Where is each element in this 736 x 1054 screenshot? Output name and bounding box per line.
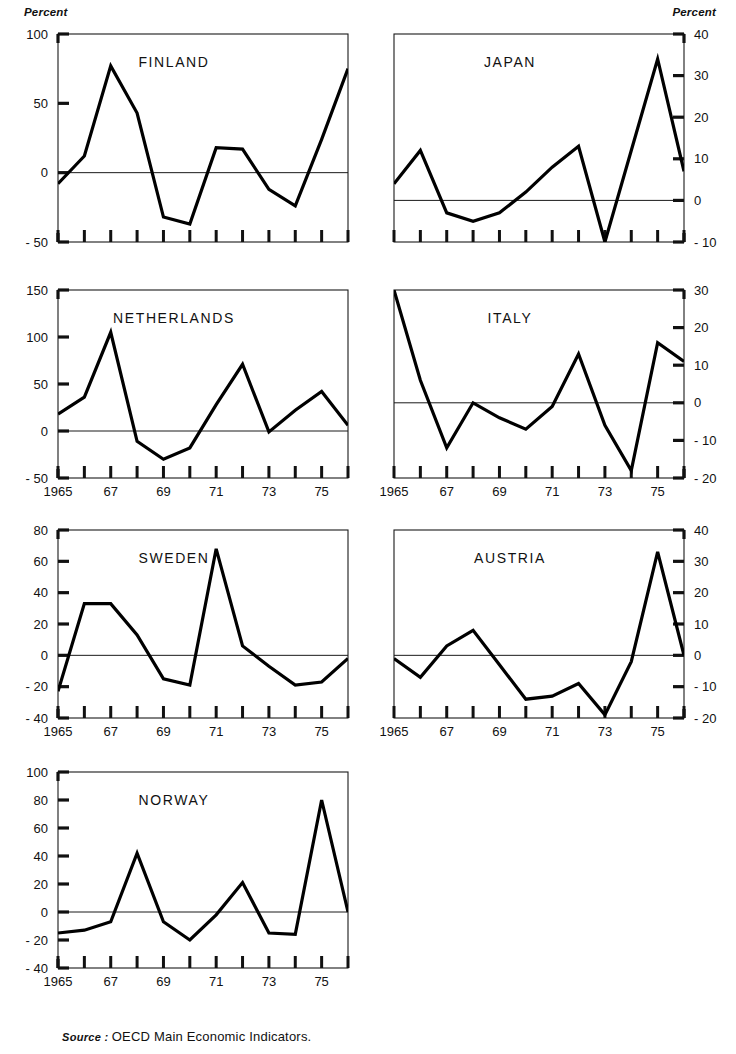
chart-panel-finland: - 50050100FINLAND: [0, 22, 368, 270]
y-tick-label: 100: [26, 27, 48, 42]
y-tick-label: 0: [41, 424, 48, 439]
x-tick-label: 73: [598, 724, 612, 739]
data-series-line: [394, 290, 684, 470]
x-tick-label: 69: [156, 724, 170, 739]
y-tick-label: 30: [694, 283, 708, 298]
y-tick-label: 60: [34, 554, 48, 569]
y-tick-label: 20: [694, 110, 708, 125]
x-tick-label: 71: [545, 724, 559, 739]
x-tick-label: 69: [492, 724, 506, 739]
chart-panel-italy: - 20- 10010203019656769717375ITALY: [368, 282, 736, 510]
y-tick-label: 10: [694, 617, 708, 632]
percent-axis-label-left: Percent: [24, 6, 68, 18]
x-tick-label: 75: [314, 974, 328, 989]
y-tick-label: - 20: [26, 679, 48, 694]
x-tick-label: 1965: [44, 724, 73, 739]
source-note: Source : OECD Main Economic Indicators.: [62, 1029, 311, 1044]
x-tick-label: 69: [156, 974, 170, 989]
y-tick-label: 20: [34, 877, 48, 892]
figure-page: Percent Percent - 50050100FINLAND - 1001…: [0, 0, 736, 1054]
x-tick-label: 67: [103, 484, 117, 499]
x-tick-label: 71: [545, 484, 559, 499]
chart-panel-austria: - 20- 1001020304019656769717375AUSTRIA: [368, 522, 736, 750]
y-tick-label: 20: [694, 585, 708, 600]
x-tick-label: 73: [598, 484, 612, 499]
data-series-line: [58, 800, 348, 940]
x-tick-label: 71: [209, 974, 223, 989]
y-tick-label: 100: [26, 765, 48, 780]
y-tick-label: 0: [694, 193, 701, 208]
chart-panel-japan: - 10010203040JAPAN: [368, 22, 736, 270]
x-tick-label: 1965: [380, 484, 409, 499]
y-tick-label: 0: [41, 905, 48, 920]
chart-title: ITALY: [488, 310, 533, 326]
x-tick-label: 75: [314, 484, 328, 499]
x-tick-label: 73: [262, 484, 276, 499]
y-tick-label: 40: [694, 523, 708, 538]
data-series-line: [58, 66, 348, 224]
y-tick-label: 100: [26, 330, 48, 345]
y-tick-label: 30: [694, 554, 708, 569]
y-tick-label: 30: [694, 68, 708, 83]
y-tick-label: 20: [694, 320, 708, 335]
chart-panel-norway: - 40- 2002040608010019656769717375NORWAY: [0, 762, 368, 1002]
x-tick-label: 73: [262, 974, 276, 989]
x-tick-label: 67: [103, 974, 117, 989]
x-tick-label: 71: [209, 484, 223, 499]
y-tick-label: - 50: [26, 235, 48, 250]
y-tick-label: 50: [34, 377, 48, 392]
y-tick-label: - 10: [694, 235, 716, 250]
x-tick-label: 1965: [44, 484, 73, 499]
chart-title: NETHERLANDS: [113, 310, 235, 326]
y-tick-label: 80: [34, 793, 48, 808]
y-tick-label: 80: [34, 523, 48, 538]
chart-panel-sweden: - 40- 2002040608019656769717375SWEDEN: [0, 522, 368, 750]
x-tick-label: 69: [492, 484, 506, 499]
y-tick-label: 0: [694, 395, 701, 410]
y-tick-label: - 20: [694, 471, 716, 486]
x-tick-label: 1965: [380, 724, 409, 739]
data-series-line: [394, 59, 684, 242]
chart-title: FINLAND: [138, 54, 209, 70]
x-tick-label: 71: [209, 724, 223, 739]
y-tick-label: 50: [34, 96, 48, 111]
x-tick-label: 75: [314, 724, 328, 739]
y-tick-label: 40: [694, 27, 708, 42]
data-series-line: [394, 552, 684, 715]
y-tick-label: 40: [34, 849, 48, 864]
data-series-line: [58, 332, 348, 459]
percent-axis-label-right: Percent: [672, 6, 716, 18]
x-tick-label: 75: [650, 724, 664, 739]
y-tick-label: 40: [34, 585, 48, 600]
x-tick-label: 69: [156, 484, 170, 499]
y-tick-label: - 10: [694, 433, 716, 448]
y-tick-label: 0: [41, 648, 48, 663]
x-tick-label: 75: [650, 484, 664, 499]
chart-title: JAPAN: [484, 54, 536, 70]
data-series-line: [58, 549, 348, 692]
y-tick-label: 10: [694, 358, 708, 373]
chart-title: NORWAY: [139, 792, 210, 808]
y-tick-label: 0: [694, 648, 701, 663]
y-tick-label: 10: [694, 151, 708, 166]
y-tick-label: 60: [34, 821, 48, 836]
chart-panel-netherlands: - 5005010015019656769717375NETHERLANDS: [0, 282, 368, 510]
x-tick-label: 73: [262, 724, 276, 739]
source-text: OECD Main Economic Indicators.: [112, 1029, 312, 1044]
x-tick-label: 67: [103, 724, 117, 739]
source-prefix: Source :: [62, 1031, 108, 1043]
y-tick-label: 0: [41, 165, 48, 180]
y-tick-label: - 20: [26, 933, 48, 948]
x-tick-label: 1965: [44, 974, 73, 989]
y-tick-label: - 20: [694, 711, 716, 726]
x-tick-label: 67: [439, 724, 453, 739]
chart-title: AUSTRIA: [474, 550, 546, 566]
y-tick-label: 20: [34, 617, 48, 632]
chart-title: SWEDEN: [138, 550, 209, 566]
x-tick-label: 67: [439, 484, 453, 499]
clipped-figure-title: [0, 0, 736, 3]
y-tick-label: 150: [26, 283, 48, 298]
y-tick-label: - 10: [694, 679, 716, 694]
